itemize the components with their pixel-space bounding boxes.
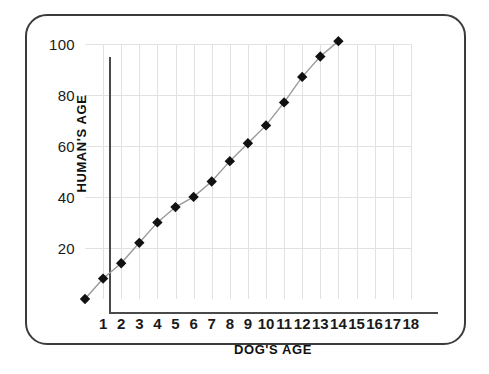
gridline-horizontal	[85, 44, 411, 45]
x-tick-label: 1	[99, 316, 107, 331]
x-tick-label: 2	[117, 316, 125, 331]
plot-area	[85, 44, 411, 299]
y-tick-label: 20	[58, 240, 75, 255]
x-tick-label: 6	[189, 316, 197, 331]
y-tick-label: 100	[49, 36, 75, 51]
x-tick-label: 12	[294, 316, 311, 331]
x-tick-label: 4	[153, 316, 161, 331]
x-tick-label: 14	[330, 316, 347, 331]
x-tick-label: 3	[135, 316, 143, 331]
gridline-horizontal	[85, 248, 411, 249]
gridline-vertical	[375, 44, 376, 299]
x-tick-label: 13	[312, 316, 329, 331]
gridline-vertical	[139, 44, 140, 299]
y-axis-tick-labels: 20406080100	[27, 16, 75, 374]
gridline-vertical	[248, 44, 249, 299]
x-tick-label: 17	[384, 316, 401, 331]
gridline-horizontal	[85, 146, 411, 147]
x-tick-label: 11	[276, 316, 292, 331]
gridline-vertical	[230, 44, 231, 299]
gridline-vertical	[157, 44, 158, 299]
gridline-vertical	[176, 44, 177, 299]
gridline-vertical	[302, 44, 303, 299]
x-tick-label: 10	[258, 316, 275, 331]
gridline-vertical	[320, 44, 321, 299]
x-tick-label: 16	[366, 316, 383, 331]
x-tick-label: 9	[244, 316, 252, 331]
gridline-vertical	[194, 44, 195, 299]
gridline-vertical	[357, 44, 358, 299]
gridline-vertical	[266, 44, 267, 299]
x-tick-label: 18	[402, 316, 419, 331]
y-tick-label: 40	[58, 189, 75, 204]
x-tick-label: 15	[348, 316, 365, 331]
x-tick-label: 8	[226, 316, 234, 331]
x-axis-title: DOG'S AGE	[110, 342, 436, 357]
x-tick-label: 7	[208, 316, 216, 331]
y-axis-title: HUMAN'S AGE	[74, 84, 89, 204]
y-tick-label: 80	[58, 87, 75, 102]
gridline-vertical	[284, 44, 285, 299]
gridline-vertical	[338, 44, 339, 299]
gridline-vertical	[393, 44, 394, 299]
x-tick-label: 5	[171, 316, 179, 331]
gridline-vertical	[121, 44, 122, 299]
x-axis-line	[110, 312, 438, 314]
gridline-horizontal	[85, 95, 411, 96]
y-axis-line	[109, 57, 111, 314]
gridline-vertical	[411, 44, 412, 299]
y-tick-label: 60	[58, 138, 75, 153]
gridline-vertical	[212, 44, 213, 299]
chart-card: 20406080100 123456789101112131415161718 …	[25, 14, 466, 345]
gridline-horizontal	[85, 197, 411, 198]
gridline-vertical	[103, 44, 104, 299]
